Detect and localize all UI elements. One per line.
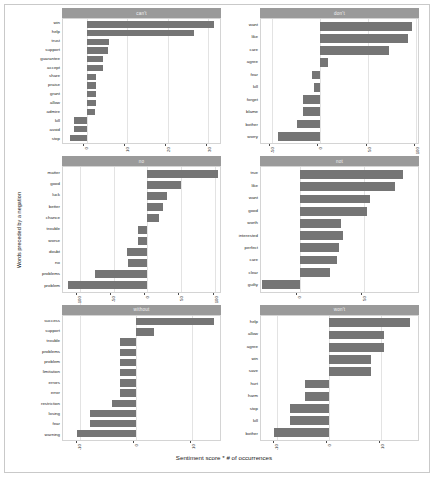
bar-row (261, 242, 418, 254)
y-tick-label: want (224, 19, 260, 31)
bar-series (261, 19, 418, 143)
bar (120, 379, 136, 386)
bar-row (63, 134, 220, 143)
bar (320, 58, 328, 67)
y-tick-label: kill (224, 415, 260, 427)
bar (147, 203, 163, 211)
y-tick-label: grant (26, 90, 62, 99)
bar (77, 430, 136, 437)
bar-row (63, 99, 220, 108)
bar (90, 410, 136, 417)
bar-row (63, 408, 220, 418)
bar-row (63, 224, 220, 235)
x-tick-label: 10 (126, 147, 130, 152)
x-tick-label: 30 (208, 147, 212, 152)
bar-row (261, 390, 418, 402)
y-tick-label: admire (26, 108, 62, 117)
bar (74, 126, 87, 132)
bar-row (63, 64, 220, 73)
bar-row (261, 57, 418, 69)
y-tick-label: guarantee (26, 55, 62, 64)
facet-panel: nomattergoodluckbetterchancetroubleworse… (26, 156, 224, 304)
y-tick-label: problems (26, 269, 62, 280)
bar (87, 100, 95, 106)
y-tick-label: stop (224, 403, 260, 415)
x-tick (76, 293, 77, 295)
y-tick-labels: wantlikecareagreefearkillforgetblameboth… (224, 18, 260, 144)
x-tick (178, 293, 179, 295)
bar-row (63, 280, 220, 291)
y-tick-label: help (26, 28, 62, 37)
bar (300, 243, 340, 252)
bar (312, 71, 321, 80)
x-axis-label: Sentiment score * # of occurrences (26, 453, 422, 469)
bar-row (261, 402, 418, 414)
bar-row (261, 254, 418, 266)
bar-row (63, 55, 220, 64)
bar-row (261, 230, 418, 242)
bar-row (63, 72, 220, 81)
bar (120, 338, 136, 345)
x-axis: -100-50050100 (62, 293, 221, 305)
bar (305, 380, 329, 389)
bar (320, 46, 389, 55)
bar (300, 207, 367, 216)
y-tick-label: problem (26, 280, 62, 291)
x-tick-label: 10 (381, 444, 385, 449)
x-axis: 050 (260, 293, 419, 305)
bar (300, 219, 341, 228)
y-tick-labels: winhelptrustsupportguaranteeacceptsharep… (26, 18, 62, 144)
y-tick-label: blame (224, 106, 260, 118)
bar-row (63, 257, 220, 268)
bar-row (63, 168, 220, 179)
bar (136, 318, 215, 325)
x-tick (190, 441, 191, 443)
bar-row (261, 32, 418, 44)
y-tick-label: good (26, 179, 62, 190)
bar (87, 91, 95, 97)
x-tick (76, 441, 77, 443)
bar-row (261, 317, 418, 329)
x-tick-label: 50 (180, 296, 184, 301)
y-tick-label: save (224, 365, 260, 377)
panel-grid (62, 18, 221, 144)
bar-row (63, 398, 220, 408)
y-axis-label-text: Words preceded by a negation (16, 192, 22, 268)
bar (87, 74, 96, 80)
y-tick-label: problem (26, 357, 62, 367)
bar (147, 170, 218, 178)
bar-row (63, 327, 220, 337)
bar (112, 400, 136, 407)
y-tick-label: agree (224, 341, 260, 353)
facet-panel: withoutsuccesssupporttroubleproblemsprob… (26, 305, 224, 453)
y-tick-label: worse (26, 235, 62, 246)
bar-row (63, 125, 220, 134)
bar-series (63, 316, 220, 440)
bar-row (261, 266, 418, 278)
bar-row (261, 44, 418, 56)
x-axis: -10010 (260, 441, 419, 453)
y-tick-label: limitation (26, 367, 62, 377)
bar-row (261, 106, 418, 118)
y-tick-label: losing (26, 409, 62, 419)
sentiment-negation-facet-chart: Words preceded by a negation can'twinhel… (0, 0, 434, 477)
y-tick-label: praise (26, 81, 62, 90)
bar-row (261, 81, 418, 93)
bar (120, 369, 136, 376)
bar (300, 182, 395, 191)
bar (329, 331, 384, 340)
y-tick-label: errors (26, 378, 62, 388)
x-tick-label: 100 (215, 296, 219, 303)
bar (300, 256, 337, 265)
bar (68, 281, 148, 289)
bar-row (63, 202, 220, 213)
y-tick-label: hurt (224, 378, 260, 390)
bar (147, 214, 158, 222)
y-tick-labels: successsupporttroubleproblemsproblemlimi… (26, 315, 62, 441)
bar (329, 367, 371, 376)
x-tick-label: 50 (363, 296, 367, 301)
x-tick-label: 50 (368, 147, 372, 152)
y-tick-label: win (26, 19, 62, 28)
y-tick-label: win (224, 353, 260, 365)
panel-grid (260, 18, 419, 144)
